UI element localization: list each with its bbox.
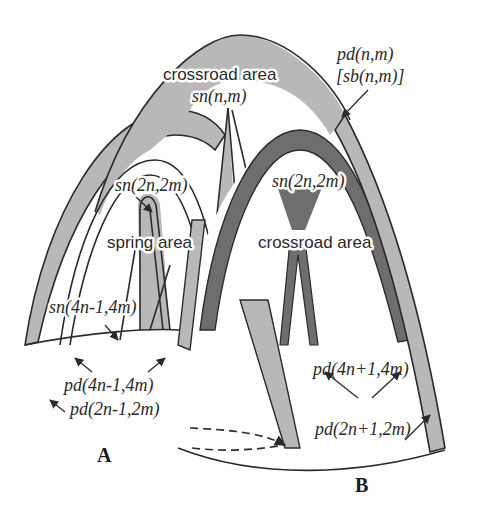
- label-right-inner-top: sn(2n,2m): [272, 171, 345, 192]
- label-part-b: B: [355, 474, 368, 496]
- label-right-pd-inner: pd(4n+1,4m): [311, 359, 409, 380]
- label-outer-arch: pd(n,m): [335, 44, 394, 65]
- vault-structure-diagram: pd(n,m) [sb(n,m)] crossroad area sn(n,m)…: [0, 0, 478, 509]
- label-right-crossroad: crossroad area: [258, 233, 372, 252]
- label-top-crossroad-sub: sn(n,m): [192, 86, 247, 107]
- label-left-pd-outer: pd(2n-1,2m): [68, 399, 159, 420]
- label-top-crossroad: crossroad area: [163, 65, 277, 84]
- label-part-a: A: [97, 444, 112, 466]
- label-left-inner-top: sn(2n,2m): [115, 175, 188, 196]
- label-left-pd-inner: pd(4n-1,4m): [62, 375, 153, 396]
- label-outer-arch-alt: [sb(n,m)]: [336, 66, 405, 87]
- label-left-inner-side: sn(4n-1,4m): [49, 297, 137, 318]
- label-spring-area: spring area: [107, 233, 193, 252]
- part-b-arch: [178, 115, 445, 470]
- label-right-pd-outer: pd(2n+1,2m): [313, 419, 411, 440]
